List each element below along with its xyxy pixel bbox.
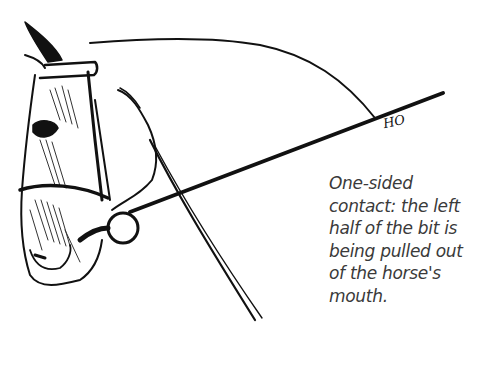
jaw-line <box>112 90 156 210</box>
bit-ring <box>108 213 138 243</box>
muzzle <box>30 245 71 269</box>
caption-line: One-sided <box>329 172 497 195</box>
bit-mouthpiece <box>80 228 108 240</box>
figure-caption: One-sided contact: the left half of the … <box>329 172 497 307</box>
caption-line: being pulled out <box>329 240 497 263</box>
ear-right <box>25 55 45 68</box>
caption-line: half of the bit is <box>329 217 497 240</box>
eye <box>33 121 58 137</box>
caption-line: contact: the left <box>329 195 497 218</box>
caption-line: mouth. <box>329 285 497 308</box>
neck-crest-line <box>90 39 375 118</box>
caption-line: of the horse's <box>329 262 497 285</box>
noseband <box>20 186 108 198</box>
head-outline <box>21 75 102 285</box>
